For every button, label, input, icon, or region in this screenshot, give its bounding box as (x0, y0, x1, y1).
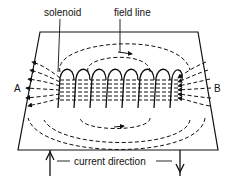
end-a-label: A (14, 84, 21, 94)
board (18, 32, 218, 150)
field-line-label: field line (114, 8, 151, 18)
end-b-label: B (214, 84, 221, 94)
coil (58, 69, 182, 108)
current-direction-label: current direction (72, 157, 148, 167)
solenoid-leader (58, 19, 60, 72)
solenoid-label: solenoid (44, 8, 81, 18)
